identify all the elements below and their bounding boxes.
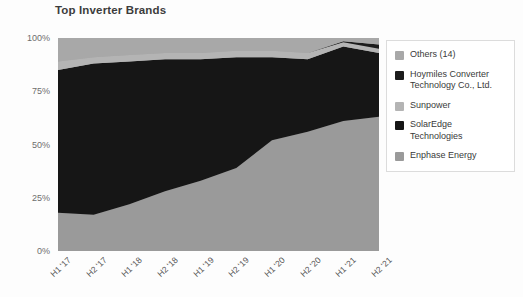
legend-item-label: Sunpower (410, 100, 451, 112)
legend-item-label: Enphase Energy (410, 150, 477, 162)
legend-item-label: Others (14) (410, 49, 456, 61)
y-axis-tick: 100% (27, 33, 50, 43)
legend-swatch-icon (395, 51, 404, 60)
chart-legend: Others (14)Hoymiles Converter Technology… (386, 40, 515, 172)
x-axis-tick: H2 '19 (227, 255, 252, 279)
legend-swatch-icon (395, 121, 404, 130)
x-axis-tick: H1 '18 (120, 255, 145, 279)
legend-swatch-icon (395, 71, 404, 80)
legend-item[interactable]: Others (14) (395, 49, 507, 61)
x-axis-tick: H2 '21 (369, 255, 394, 279)
y-axis-tick: 25% (32, 193, 50, 203)
x-axis-tick: H1 '19 (191, 255, 216, 279)
y-axis: 0%25%50%75%100% (0, 28, 56, 263)
x-axis-tick: H2 '20 (298, 255, 323, 279)
stacked-area-plot (58, 38, 379, 251)
legend-item[interactable]: Hoymiles Converter Technology Co., Ltd. (395, 69, 507, 92)
legend-item[interactable]: SolarEdge Technologies (395, 119, 507, 142)
legend-item[interactable]: Sunpower (395, 100, 507, 112)
legend-swatch-icon (395, 102, 404, 111)
legend-swatch-icon (395, 152, 404, 161)
area-bands (58, 38, 379, 251)
chart-container: Top Inverter Brands 0%25%50%75%100% H1 '… (0, 0, 523, 297)
x-axis-tick: H2 '18 (155, 255, 180, 279)
x-axis-tick: H2 '17 (84, 255, 109, 279)
chart-title: Top Inverter Brands (55, 4, 166, 16)
legend-item-label: SolarEdge Technologies (410, 119, 463, 142)
legend-item-label: Hoymiles Converter Technology Co., Ltd. (410, 69, 492, 92)
x-axis: H1 '17H2 '17H1 '18H2 '18H1 '19H2 '19H1 '… (58, 251, 379, 297)
y-axis-tick: 50% (32, 140, 50, 150)
y-axis-tick: 0% (37, 246, 50, 256)
legend-item[interactable]: Enphase Energy (395, 150, 507, 162)
plot-area (58, 38, 379, 251)
x-axis-tick: H1 '20 (262, 255, 287, 279)
y-axis-tick: 75% (32, 86, 50, 96)
x-axis-tick: H1 '21 (334, 255, 359, 279)
